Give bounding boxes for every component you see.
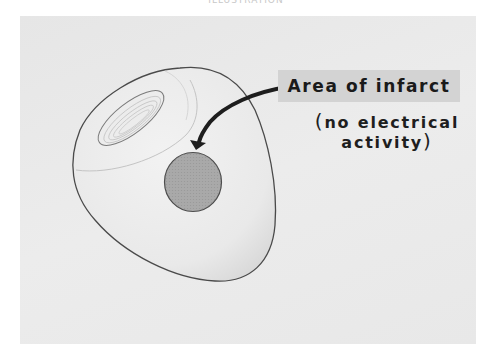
infarct-label-box: Area of infarct bbox=[278, 70, 460, 102]
heart-diagram bbox=[0, 0, 492, 361]
infarct-label-title: Area of infarct bbox=[288, 76, 451, 96]
infarct-area bbox=[165, 153, 222, 212]
infarct-note: (no electrical activity) bbox=[312, 112, 462, 152]
note-line-1: no electrical bbox=[324, 113, 459, 132]
note-open-paren: ( bbox=[315, 109, 325, 133]
note-close-paren: ) bbox=[423, 129, 433, 153]
note-line-2: activity bbox=[341, 133, 423, 152]
